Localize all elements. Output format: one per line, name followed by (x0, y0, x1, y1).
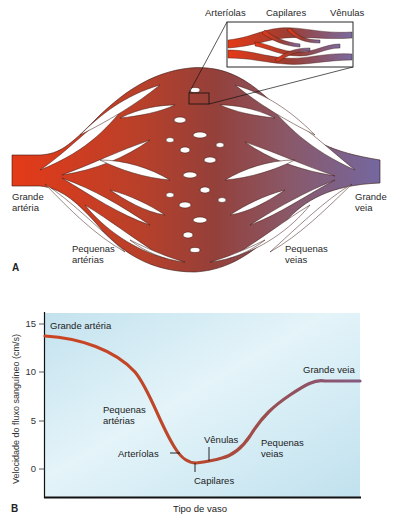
annotation-pequenas-arterias: Pequenas artérias (103, 404, 146, 426)
annotation-arteriolas: Arteríolas (118, 448, 159, 459)
annotation-grande-arteria: Grande artéria (50, 320, 111, 331)
annotation-grande-veia: Grande veia (303, 364, 355, 375)
y-axis-label: Velocidade do fluxo sanguíneo (cm/s) (11, 334, 21, 484)
x-axis-label: Tipo de vaso (173, 503, 227, 514)
panel-b-letter: B (11, 503, 18, 514)
plot-area (45, 313, 360, 497)
y-tick-10: 10 (20, 366, 36, 377)
y-tick-5: 5 (20, 415, 36, 426)
y-tick-0: 0 (20, 463, 36, 474)
velocity-chart (0, 0, 394, 517)
y-tick-15: 15 (20, 318, 36, 329)
annotation-venulas: Vênulas (204, 434, 238, 445)
annotation-capilares: Capilares (194, 475, 234, 486)
annotation-pequenas-veias: Pequenas veias (261, 437, 304, 459)
